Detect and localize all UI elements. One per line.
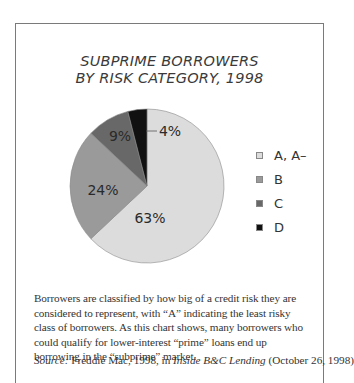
- legend-swatch-a: [256, 152, 263, 159]
- legend-swatch-b: [256, 176, 263, 183]
- source-post: (October 26, 1998): [266, 354, 354, 366]
- source-pre: Freddie Mac, 1998, in: [68, 354, 173, 366]
- legend-label-a: A, A–: [274, 148, 307, 164]
- legend-label-c: C: [274, 196, 283, 212]
- legend-item-b: B: [255, 172, 325, 188]
- legend-item-c: C: [255, 196, 325, 212]
- slice-label-b: 24%: [87, 182, 118, 198]
- legend-label-d: D: [274, 220, 284, 236]
- legend-swatch-d: [256, 224, 263, 231]
- legend-item-a: A, A–: [255, 148, 325, 164]
- slice-label-d: 4%: [159, 123, 181, 139]
- slice-label-c: 9%: [109, 128, 131, 144]
- source-label: Source:: [34, 354, 68, 366]
- legend-label-b: B: [274, 172, 283, 188]
- chart-source: Source: Freddie Mac, 1998, in Inside B&C…: [34, 353, 319, 367]
- slice-label-a: 63%: [134, 210, 165, 226]
- legend-item-d: D: [255, 220, 325, 236]
- legend-swatch-c: [256, 200, 263, 207]
- source-publication: Inside B&C Lending: [173, 354, 266, 366]
